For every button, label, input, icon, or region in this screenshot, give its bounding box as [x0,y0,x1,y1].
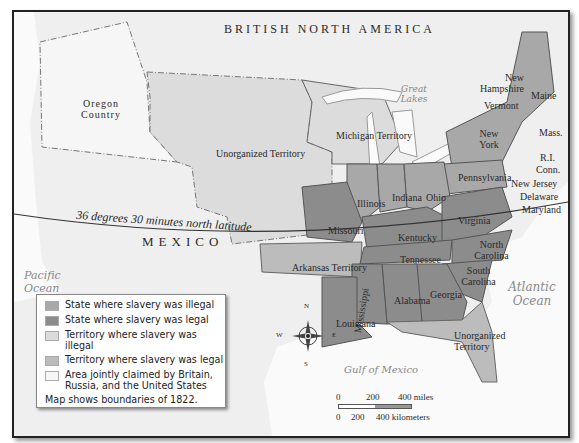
map-legend: State where slavery was illegal State wh… [36,294,226,408]
legend-label: Area jointly claimed by Britain, Russia,… [65,369,225,391]
label-louisiana: Louisiana [336,318,375,329]
label-mass: Mass. [539,127,563,138]
label-arkansas-territory: Arkansas Territory [292,262,367,273]
label-ri: R.I. [540,152,555,163]
legend-label: State where slavery was illegal [65,299,214,310]
legend-item: Area jointly claimed by Britain, Russia,… [45,369,225,391]
label-indiana: Indiana [392,192,422,203]
label-north-carolina: North Carolina [469,239,514,261]
label-kentucky: Kentucky [398,232,437,243]
scale-bar: 0 200 400 miles 0 200 400 kilometers [336,392,446,426]
label-mexico: MEXICO [142,234,223,250]
label-oregon-country: Oregon Country [76,98,126,120]
compass-s: S [304,360,308,368]
legend-swatch-free-territory [45,331,59,341]
legend-note: Map shows boundaries of 1822. [45,394,225,405]
scale-miles-400: 400 miles [398,392,433,402]
label-illinois: Illinois [357,198,385,209]
label-great-lakes: Great Lakes [394,84,434,104]
compass-n: N [304,302,309,310]
label-georgia: Georgia [430,289,462,300]
label-vermont: Vermont [484,100,518,111]
legend-item: Territory where slavery was legal [45,354,225,366]
label-pacific-ocean: Pacific Ocean [24,269,74,295]
scale-km-400: 400 kilometers [376,412,430,422]
legend-item: State where slavery was legal [45,314,225,326]
scale-bar-graphic [338,404,412,409]
label-missouri: Missouri [328,225,364,236]
label-british-north-america: BRITISH NORTH AMERICA [224,22,435,37]
label-unorganized-territory-florida: Unorganized Territory [454,330,524,352]
label-atlantic-ocean: Atlantic Ocean [502,280,562,308]
label-new-york: New York [474,128,504,150]
label-conn: Conn. [536,164,560,175]
label-virginia: Virginia [458,215,491,226]
scale-km-0: 0 [336,412,341,422]
legend-swatch-free-state [45,301,59,311]
label-ohio: Ohio [426,192,446,203]
label-michigan-territory: Michigan Territory [336,130,412,141]
legend-swatch-joint-area [45,371,59,381]
label-pennsylvania: Pennsylvania [458,172,511,183]
legend-item: State where slavery was illegal [45,299,225,311]
legend-swatch-slave-state [45,316,59,326]
label-new-hampshire: New Hampshire [474,72,524,94]
legend-item: Territory where slavery was illegal [45,329,225,351]
compass-w: W [276,331,283,339]
label-unorganized-territory: Unorganized Territory [216,148,305,159]
label-new-jersey: New Jersey [511,178,557,189]
legend-label: State where slavery was legal [65,314,209,325]
label-tennessee: Tennessee [400,254,441,265]
label-maine: Maine [531,90,557,101]
scale-miles-0: 0 [336,392,341,402]
map-frame: BRITISH NORTH AMERICA MEXICO Oregon Coun… [12,10,570,438]
label-alabama: Alabama [394,295,430,306]
compass-icon [284,312,332,360]
compass-e: E [332,331,336,339]
scale-miles-200: 200 [366,392,380,402]
legend-swatch-slave-territory [45,356,59,366]
label-south-carolina: South Carolina [456,265,501,287]
compass-rose: N S E W [284,312,332,364]
label-maryland: Maryland [522,204,561,215]
legend-label: Territory where slavery was illegal [65,329,225,351]
label-delaware: Delaware [520,191,558,202]
legend-label: Territory where slavery was legal [65,354,223,365]
label-gulf-of-mexico: Gulf of Mexico [344,364,418,375]
scale-km-200: 200 [351,412,365,422]
